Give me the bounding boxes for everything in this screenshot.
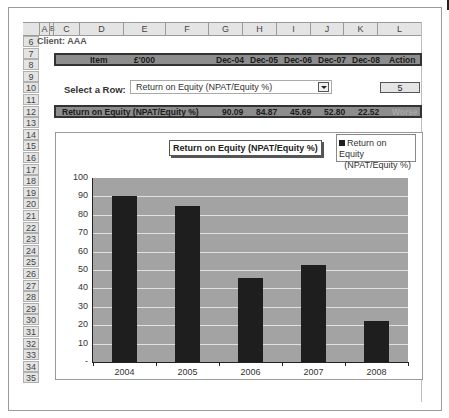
row-header-35[interactable]: 35	[23, 372, 39, 383]
x-tick-mark	[345, 362, 346, 366]
y-tick-label: 40	[60, 282, 88, 292]
row-header-13[interactable]: 13	[23, 117, 39, 128]
x-tick-mark	[93, 362, 94, 366]
chart-title: Return on Equity (NPAT/Equity %)	[169, 140, 322, 156]
row-header-10[interactable]: 10	[23, 82, 39, 93]
legend-line2: (NPAT/Equity %)	[339, 160, 413, 171]
header-band: Item £'000 Dec-04 Dec-05 Dec-06 Dec-07 D…	[54, 53, 422, 66]
dropdown-value: Return on Equity (NPAT/Equity %)	[136, 82, 272, 92]
row-select-dropdown[interactable]: Return on Equity (NPAT/Equity %)	[130, 80, 332, 94]
column-header-h[interactable]: H	[242, 23, 276, 35]
column-header-i[interactable]: I	[276, 23, 310, 35]
column-header-g[interactable]: G	[208, 23, 242, 35]
legend-line1: Return on Equity	[339, 138, 387, 159]
row-header-7[interactable]: 7	[23, 48, 39, 59]
y-tick-label: 80	[60, 209, 88, 219]
item-header: Item	[90, 55, 107, 65]
row-header-30[interactable]: 30	[23, 314, 39, 325]
column-header-c[interactable]: C	[53, 23, 79, 35]
unit-header: £'000	[134, 55, 155, 65]
period-header-3: Dec-07	[318, 55, 346, 65]
bar-2006[interactable]	[238, 278, 263, 362]
row-header-28[interactable]: 28	[23, 291, 39, 302]
row-header-18[interactable]: 18	[23, 175, 39, 186]
chart-legend: Return on Equity (NPAT/Equity %)	[336, 134, 416, 162]
result-action: Worse	[392, 107, 418, 117]
column-header-f[interactable]: F	[165, 23, 208, 35]
result-value-1: 84.87	[256, 107, 277, 117]
bar-2005[interactable]	[175, 206, 200, 362]
roe-chart[interactable]: Return on Equity (NPAT/Equity %) Return …	[55, 132, 423, 380]
y-tick-label: 20	[60, 319, 88, 329]
row-header-22[interactable]: 22	[23, 222, 39, 233]
y-tick-label: 30	[60, 301, 88, 311]
y-tick-label: 100	[60, 172, 88, 182]
gridline	[93, 270, 408, 271]
period-header-2: Dec-06	[284, 55, 312, 65]
y-tick-label: 60	[60, 246, 88, 256]
x-tick-label: 2007	[294, 367, 334, 377]
row-header-12[interactable]: 12	[23, 106, 39, 117]
plot-area	[93, 178, 408, 362]
row-header-29[interactable]: 29	[23, 303, 39, 314]
x-tick-label: 2004	[105, 367, 145, 377]
column-header-d[interactable]: D	[79, 23, 123, 35]
y-tick-label: 10	[60, 338, 88, 348]
row-header-27[interactable]: 27	[23, 280, 39, 291]
gridline	[93, 196, 408, 197]
row-header-9[interactable]: 9	[23, 71, 39, 82]
column-header-l[interactable]: L	[377, 23, 421, 35]
row-header-32[interactable]: 32	[23, 338, 39, 349]
x-tick-mark	[282, 362, 283, 366]
row-header-21[interactable]: 21	[23, 210, 39, 221]
row-header-20[interactable]: 20	[23, 198, 39, 209]
row-header-25[interactable]: 25	[23, 256, 39, 267]
column-headers: A B C D E F G H I J K L	[23, 22, 421, 36]
row-header-14[interactable]: 14	[23, 129, 39, 140]
bar-2008[interactable]	[364, 321, 389, 362]
bar-2004[interactable]	[112, 196, 137, 362]
x-axis	[93, 362, 408, 363]
row-number-cell[interactable]: 5	[380, 82, 420, 93]
row-header-33[interactable]: 33	[23, 349, 39, 360]
y-tick-label: 70	[60, 227, 88, 237]
chevron-down-icon[interactable]	[318, 82, 329, 92]
result-value-0: 90.09	[222, 107, 243, 117]
row-header-19[interactable]: 19	[23, 187, 39, 198]
x-tick-label: 2005	[168, 367, 208, 377]
row-header-26[interactable]: 26	[23, 268, 39, 279]
row-header-23[interactable]: 23	[23, 233, 39, 244]
column-header-a[interactable]: A	[39, 23, 49, 35]
row-header-34[interactable]: 34	[23, 361, 39, 372]
result-value-4: 22.52	[358, 107, 379, 117]
x-tick-mark	[408, 362, 409, 366]
result-band: Return on Equity (NPAT/Equity %) 90.09 8…	[54, 105, 422, 118]
row-header-31[interactable]: 31	[23, 326, 39, 337]
column-header-k[interactable]: K	[343, 23, 377, 35]
action-header: Action	[389, 55, 415, 65]
gridline	[93, 252, 408, 253]
select-row-label: Select a Row:	[64, 84, 126, 95]
legend-swatch	[339, 140, 345, 146]
result-value-3: 52.80	[324, 107, 345, 117]
period-header-0: Dec-04	[216, 55, 244, 65]
row-header-11[interactable]: 11	[23, 94, 39, 105]
row-header-8[interactable]: 8	[23, 59, 39, 70]
row-header-16[interactable]: 16	[23, 152, 39, 163]
x-tick-label: 2006	[231, 367, 271, 377]
y-tick-label: 50	[60, 264, 88, 274]
client-label: Client: AAA	[37, 36, 87, 46]
row-header-15[interactable]: 15	[23, 140, 39, 151]
result-value-2: 45.69	[290, 107, 311, 117]
row-header-24[interactable]: 24	[23, 245, 39, 256]
column-header-e[interactable]: E	[123, 23, 165, 35]
x-tick-mark	[156, 362, 157, 366]
period-header-1: Dec-05	[250, 55, 278, 65]
y-axis	[92, 178, 93, 363]
select-all-corner[interactable]	[23, 23, 39, 35]
column-header-j[interactable]: J	[310, 23, 343, 35]
bar-2007[interactable]	[301, 265, 326, 362]
x-tick-mark	[219, 362, 220, 366]
gridline	[93, 233, 408, 234]
row-header-17[interactable]: 17	[23, 164, 39, 175]
